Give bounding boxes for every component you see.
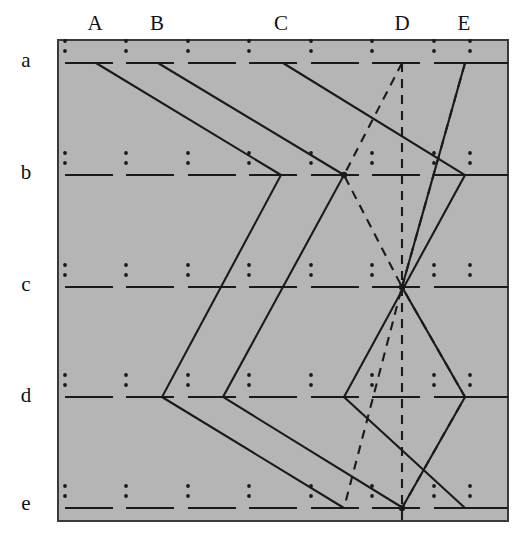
colon-dot xyxy=(309,263,313,267)
colon-dot xyxy=(370,161,374,165)
colon-dot xyxy=(186,161,190,165)
colon-dot xyxy=(247,373,251,377)
colon-dot xyxy=(124,273,128,277)
colon-dot xyxy=(468,39,472,43)
colon-dot xyxy=(247,494,251,498)
colon-dot xyxy=(63,263,67,267)
colon-dot xyxy=(124,494,128,498)
colon-dot xyxy=(468,383,472,387)
colon-dot xyxy=(309,39,313,43)
colon-dot xyxy=(468,49,472,53)
colon-dot xyxy=(186,494,190,498)
colon-dot xyxy=(370,151,374,155)
column-label-A: A xyxy=(87,13,102,34)
colon-dot xyxy=(63,383,67,387)
colon-dot xyxy=(247,263,251,267)
colon-dot xyxy=(247,49,251,53)
colon-dot xyxy=(124,39,128,43)
colon-dot xyxy=(432,263,436,267)
colon-dot xyxy=(309,273,313,277)
colon-dot xyxy=(309,494,313,498)
colon-dot xyxy=(63,273,67,277)
colon-dot xyxy=(247,484,251,488)
colon-dot xyxy=(370,39,374,43)
colon-dot xyxy=(63,484,67,488)
colon-dot xyxy=(124,484,128,488)
row-label-a: a xyxy=(21,50,30,71)
colon-dot xyxy=(432,161,436,165)
column-label-C: C xyxy=(274,13,288,34)
colon-dot xyxy=(468,273,472,277)
colon-dot xyxy=(468,161,472,165)
colon-dot xyxy=(370,494,374,498)
colon-dot xyxy=(468,151,472,155)
colon-dot xyxy=(186,373,190,377)
colon-dot xyxy=(432,494,436,498)
row-label-d: d xyxy=(21,385,32,406)
diagram-canvas xyxy=(0,0,522,541)
colon-dot xyxy=(186,383,190,387)
lattice-diagram-figure: ABCDEabcde xyxy=(0,0,522,541)
colon-dot xyxy=(124,49,128,53)
colon-dot xyxy=(432,383,436,387)
colon-dot xyxy=(468,494,472,498)
colon-dot xyxy=(63,373,67,377)
colon-dot xyxy=(124,161,128,165)
column-label-D: D xyxy=(394,13,409,34)
colon-dot xyxy=(63,49,67,53)
colon-dot xyxy=(370,373,374,377)
colon-dot xyxy=(370,49,374,53)
colon-dot xyxy=(432,273,436,277)
node-c-D xyxy=(399,284,405,290)
colon-dot xyxy=(468,484,472,488)
colon-dot xyxy=(247,383,251,387)
colon-dot xyxy=(309,373,313,377)
colon-dot xyxy=(124,373,128,377)
colon-dot xyxy=(186,484,190,488)
row-label-b: b xyxy=(21,162,32,183)
colon-dot xyxy=(124,263,128,267)
colon-dot xyxy=(186,39,190,43)
colon-dot xyxy=(247,161,251,165)
node-e-D xyxy=(399,505,405,511)
colon-dot xyxy=(63,151,67,155)
colon-dot xyxy=(186,263,190,267)
node-b-mid xyxy=(341,172,347,178)
diagram-frame xyxy=(58,40,508,521)
colon-dot xyxy=(468,263,472,267)
column-label-E: E xyxy=(458,13,471,34)
colon-dot xyxy=(432,484,436,488)
colon-dot xyxy=(309,49,313,53)
colon-dot xyxy=(63,494,67,498)
colon-dot xyxy=(432,39,436,43)
diagram-frame-rect xyxy=(58,40,508,521)
colon-dot xyxy=(370,273,374,277)
colon-dot xyxy=(124,383,128,387)
colon-dot xyxy=(186,49,190,53)
colon-dot xyxy=(309,383,313,387)
row-label-e: e xyxy=(21,493,30,514)
colon-dot xyxy=(186,273,190,277)
colon-dot xyxy=(63,39,67,43)
colon-dot xyxy=(432,49,436,53)
colon-dot xyxy=(370,263,374,267)
colon-dot xyxy=(370,383,374,387)
colon-dot xyxy=(468,373,472,377)
column-label-B: B xyxy=(150,13,164,34)
colon-dot xyxy=(63,161,67,165)
colon-dot xyxy=(309,161,313,165)
colon-dot xyxy=(432,373,436,377)
colon-dot xyxy=(124,151,128,155)
row-label-c: c xyxy=(21,274,30,295)
colon-dot xyxy=(247,273,251,277)
colon-dot xyxy=(186,151,190,155)
colon-dot xyxy=(247,39,251,43)
